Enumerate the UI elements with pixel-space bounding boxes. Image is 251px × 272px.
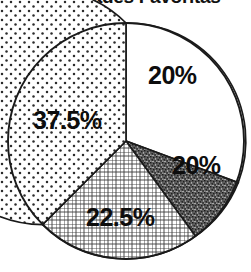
pie-label-dots-slice: 37.5% xyxy=(33,108,101,133)
pie-label-crosshatch-slice: 22.5% xyxy=(86,205,154,230)
pie-label-speckle-slice: 20% xyxy=(172,153,221,178)
pie-chart-figure: Actividades Favoritas xyxy=(0,0,251,272)
pie-chart-graphic xyxy=(0,0,251,272)
pie-label-blank-slice: 20% xyxy=(148,63,197,88)
